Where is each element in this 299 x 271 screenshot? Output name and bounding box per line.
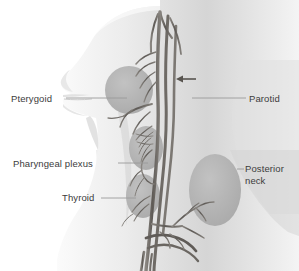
jaw-shadow [86, 116, 98, 150]
label-posterior-neck-line1: Posterior [245, 163, 284, 174]
label-thyroid: Thyroid [62, 192, 94, 204]
label-pterygoid: Pterygoid [11, 93, 52, 105]
label-posterior-neck: Posterior neck [245, 163, 297, 186]
anatomy-figure [0, 0, 299, 271]
label-posterior-neck-line2: neck [245, 175, 265, 186]
label-parotid: Parotid [249, 93, 280, 105]
posterior-neck-region [189, 154, 241, 226]
pterygoid-region [105, 66, 153, 114]
label-pharyngeal-plexus: Pharyngeal plexus [13, 158, 93, 170]
